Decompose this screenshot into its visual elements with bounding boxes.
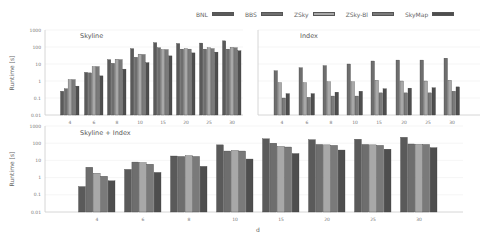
x-tick-label: 6: [93, 120, 96, 125]
y-tick-label: 0.1: [34, 192, 41, 197]
bar-bnl: [177, 44, 180, 115]
bar-bnl: [200, 43, 203, 115]
x-tick-label: 20: [324, 217, 330, 222]
bar-bbs: [444, 58, 448, 115]
bar-bbs: [134, 57, 137, 115]
x-tick-label: 8: [330, 120, 333, 125]
bar-bnl: [263, 139, 270, 212]
bar-zsky: [230, 47, 233, 115]
bar-zsky-bl: [355, 96, 359, 115]
bar-zsky: [207, 48, 210, 115]
bar-zsky: [400, 81, 404, 115]
bar-bnl: [223, 41, 226, 115]
bar-bnl: [125, 169, 132, 212]
bar-bbs: [203, 49, 206, 115]
bar-bbs: [323, 66, 327, 115]
x-tick-label: 10: [137, 120, 143, 125]
x-tick-label: 4: [69, 120, 72, 125]
x-tick-label: 20: [401, 120, 407, 125]
bar-bbs: [347, 64, 351, 115]
bar-bbs: [299, 68, 303, 115]
bar-zsky: [278, 83, 282, 115]
x-tick-label: 15: [278, 217, 284, 222]
bar-bbs: [274, 71, 278, 115]
bar-bnl: [355, 139, 362, 212]
x-tick-label: 25: [206, 120, 212, 125]
bar-skymap: [430, 148, 437, 212]
bar-bbs: [316, 144, 323, 212]
x-tick-label: 8: [188, 217, 191, 222]
bar-zsky-bl: [331, 96, 335, 115]
bar-zsky: [184, 49, 187, 115]
bar-bbs: [157, 48, 160, 115]
bar-bbs: [362, 144, 369, 212]
bar-zsky-bl: [234, 48, 237, 115]
bar-zsky: [138, 54, 141, 115]
bar-skymap: [432, 88, 436, 115]
bar-zsky-bl: [452, 91, 456, 115]
bar-bbs: [111, 63, 114, 115]
y-tick-label: 10: [35, 158, 41, 163]
bar-zsky: [92, 67, 95, 115]
y-tick-label: 100: [32, 45, 41, 50]
bar-zsky: [303, 83, 307, 115]
bar-bbs: [178, 156, 185, 212]
bar-skymap: [215, 52, 218, 115]
bar-skymap: [123, 69, 126, 115]
bar-zsky: [415, 144, 422, 212]
bar-skymap: [311, 94, 315, 115]
bar-zsky: [448, 80, 452, 115]
bar-zsky-bl: [96, 67, 99, 115]
bar-bbs: [64, 89, 67, 115]
bar-bbs: [86, 167, 93, 212]
bar-bbs: [132, 162, 139, 212]
bar-zsky: [375, 80, 379, 115]
bar-zsky: [424, 81, 428, 115]
bar-bbs: [420, 60, 424, 115]
bar-zsky-bl: [119, 60, 122, 115]
bar-bbs: [224, 151, 231, 212]
bar-zsky: [68, 80, 71, 115]
bar-zsky-bl: [307, 97, 311, 115]
bar-bbs: [408, 144, 415, 212]
bar-zsky-bl: [428, 93, 432, 115]
bar-zsky-bl: [147, 164, 154, 212]
x-tick-label: 30: [229, 120, 235, 125]
bar-zsky-bl: [379, 93, 383, 115]
x-axis-label: d: [256, 226, 260, 233]
bar-zsky-bl: [72, 80, 75, 115]
y-tick-label: 1: [38, 175, 41, 180]
bar-zsky-bl: [377, 145, 384, 212]
y-tick-label: 100: [32, 141, 41, 146]
y-tick-label: 10: [35, 62, 41, 67]
bar-bnl: [108, 60, 111, 115]
bar-bbs: [180, 49, 183, 115]
bar-zsky: [327, 82, 331, 115]
y-tick-label: 0.01: [31, 210, 41, 215]
bar-zsky: [369, 145, 376, 212]
bar-skymap: [246, 159, 253, 212]
bar-bbs: [396, 60, 400, 115]
bar-bnl: [309, 140, 316, 212]
bar-zsky: [93, 173, 100, 212]
x-tick-label: 30: [449, 120, 455, 125]
x-tick-label: 15: [376, 120, 382, 125]
bar-zsky: [161, 50, 164, 115]
x-tick-label: 10: [352, 120, 358, 125]
y-tick-label: 0.01: [31, 113, 41, 118]
bar-zsky: [323, 145, 330, 212]
bar-skymap: [384, 149, 391, 212]
y-tick-label: 1: [38, 79, 41, 84]
bar-zsky: [185, 156, 192, 212]
bar-bnl: [131, 49, 134, 115]
bar-zsky-bl: [193, 156, 200, 212]
bar-zsky-bl: [404, 93, 408, 115]
panel-title: Skyline: [80, 32, 103, 40]
bar-skymap: [108, 181, 115, 212]
bar-zsky-bl: [331, 145, 338, 212]
bar-bbs: [88, 73, 91, 115]
bar-zsky: [115, 59, 118, 115]
y-tick-label: 1000: [30, 124, 42, 129]
bar-skymap: [238, 51, 241, 115]
x-tick-label: 15: [160, 120, 166, 125]
